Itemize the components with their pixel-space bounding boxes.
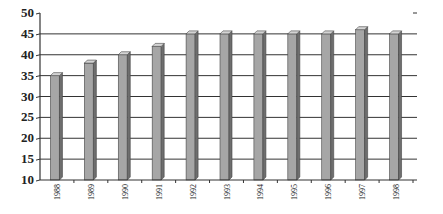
x-tick-label: 1989 [87,184,96,200]
x-tick-label: 1992 [189,184,198,200]
bar-1996 [322,31,334,180]
x-tick-label: 1991 [155,184,164,200]
bar-1990 [118,52,130,180]
bar-1998 [390,31,402,180]
x-tick-label: 1993 [223,184,232,200]
x-tick-label: 1997 [358,184,367,200]
x-axis: 1988198919901991199219931994199519961997… [40,180,413,200]
y-tick-label: 50 [21,5,34,20]
y-tick-label: 20 [21,130,34,145]
x-tick-label: 1995 [290,184,299,200]
y-tick-label: 25 [21,109,35,124]
y-tick-label: 40 [21,47,34,62]
bar-1992 [186,31,198,180]
y-tick-label: 35 [21,68,35,83]
bar-1989 [84,60,96,180]
chart-canvas: 101520253035404550 198819891990199119921… [0,0,443,214]
x-tick-label: 1988 [53,184,62,200]
x-tick-label: 1994 [256,184,265,200]
bars [50,27,401,180]
y-tick-label: 30 [21,89,34,104]
x-tick-label: 1990 [121,184,130,200]
bar-1994 [254,31,266,180]
bar-1997 [356,27,368,180]
y-tick-label: 10 [21,172,34,187]
x-tick-label: 1996 [324,184,333,200]
bar-1988 [50,73,62,180]
y-tick-label: 15 [21,151,35,166]
bar-1991 [152,43,164,180]
x-tick-label: 1998 [392,184,401,200]
y-tick-label: 45 [21,26,35,41]
bar-1995 [288,31,300,180]
bar-1993 [220,31,232,180]
